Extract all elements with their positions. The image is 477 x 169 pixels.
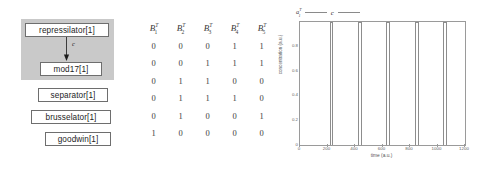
x-tick-label-3: 600 <box>369 146 395 151</box>
matrix-column-header-4: BT4 <box>221 20 248 37</box>
matrix-cell-r5-c3: 0 <box>194 107 221 125</box>
legend-line-swatch <box>305 12 327 13</box>
legend-entry-a1T: aT1 <box>296 7 301 17</box>
node-brusselator[interactable]: brusselator[1] <box>31 110 111 124</box>
matrix-cell-r2-c2: 0 <box>167 55 194 73</box>
x-tick-label-1: 200 <box>314 146 340 151</box>
node-repressilator[interactable]: repressilator[1] <box>25 23 109 37</box>
x-tick-label-4: 800 <box>396 146 422 151</box>
x-axis-title: time (a.u.) <box>299 153 464 158</box>
matrix-cell-r4-c3: 1 <box>194 90 221 108</box>
matrix-cell-r2-c4: 1 <box>221 55 248 73</box>
pulse-3 <box>386 22 390 145</box>
edge-label-c: c <box>72 40 75 47</box>
legend-entry-c: c <box>331 9 334 17</box>
pulse-2 <box>358 22 362 145</box>
component-diagram: repressilator[1] c mod17[1] separator[1]… <box>0 0 140 169</box>
matrix-header-row: BT1BT2BT3BT4BT5 <box>140 20 275 37</box>
matrix-cell-r3-c3: 1 <box>194 72 221 90</box>
matrix-cell-r3-c2: 1 <box>167 72 194 90</box>
table-row: 10000 <box>140 125 275 143</box>
matrix-cell-r4-c4: 1 <box>221 90 248 108</box>
matrix-cell-r6-c2: 0 <box>167 125 194 143</box>
y-tick-label-1: 0.2 <box>276 117 298 122</box>
matrix-cell-r1-c3: 0 <box>194 37 221 55</box>
x-tick-label-5: 1000 <box>424 146 450 151</box>
matrix-cell-r6-c3: 0 <box>194 125 221 143</box>
x-tick-label-2: 400 <box>341 146 367 151</box>
table-row: 01100 <box>140 72 275 90</box>
matrix-cell-r5-c1: 0 <box>140 107 167 125</box>
legend-line-swatch-2 <box>338 12 360 13</box>
x-tick-label-6: 1200 <box>451 146 477 151</box>
timeseries-chart-panel: aT1 c 00.20.40.60.8 02004006008001000120… <box>268 0 477 169</box>
matrix-cell-r1-c4: 1 <box>221 37 248 55</box>
matrix-cell-r5-c2: 1 <box>167 107 194 125</box>
node-goodwin[interactable]: goodwin[1] <box>45 132 111 146</box>
edge-arrow-icon <box>62 37 71 62</box>
chart-legend: aT1 c <box>296 7 360 18</box>
matrix-cell-r5-c4: 0 <box>221 107 248 125</box>
matrix-column-header-2: BT2 <box>167 20 194 37</box>
plot-area <box>299 21 466 146</box>
matrix-cell-r2-c3: 1 <box>194 55 221 73</box>
pulse-4 <box>415 22 419 145</box>
table-row: 00111 <box>140 55 275 73</box>
matrix-cell-r6-c1: 1 <box>140 125 167 143</box>
matrix-cell-r4-c1: 0 <box>140 90 167 108</box>
matrix-cell-r3-c1: 0 <box>140 72 167 90</box>
matrix-cell-r1-c1: 0 <box>140 37 167 55</box>
table-row: 01110 <box>140 90 275 108</box>
matrix-column-header-1: BT1 <box>140 20 167 37</box>
matrix-cell-r4-c2: 1 <box>167 90 194 108</box>
matrix-cell-r1-c2: 0 <box>167 37 194 55</box>
y-tick-label-2: 0.4 <box>276 92 298 97</box>
node-mod17[interactable]: mod17[1] <box>40 62 102 76</box>
table-row: 00011 <box>140 37 275 55</box>
matrix-cell-r3-c4: 0 <box>221 72 248 90</box>
y-axis-title: concentration (a.u.) <box>278 19 283 91</box>
binary-matrix-panel: BT1BT2BT3BT4BT5 000110011101100011100100… <box>140 0 280 169</box>
table-row: 01001 <box>140 107 275 125</box>
pulse-5 <box>443 22 447 145</box>
binary-matrix-table: BT1BT2BT3BT4BT5 000110011101100011100100… <box>140 20 275 142</box>
matrix-cell-r2-c1: 0 <box>140 55 167 73</box>
node-separator[interactable]: separator[1] <box>38 88 108 102</box>
x-tick-label-0: 0 <box>286 146 312 151</box>
matrix-column-header-3: BT3 <box>194 20 221 37</box>
y-tick-label-0: 0 <box>276 142 298 147</box>
pulse-1 <box>330 22 333 145</box>
matrix-cell-r6-c4: 0 <box>221 125 248 143</box>
